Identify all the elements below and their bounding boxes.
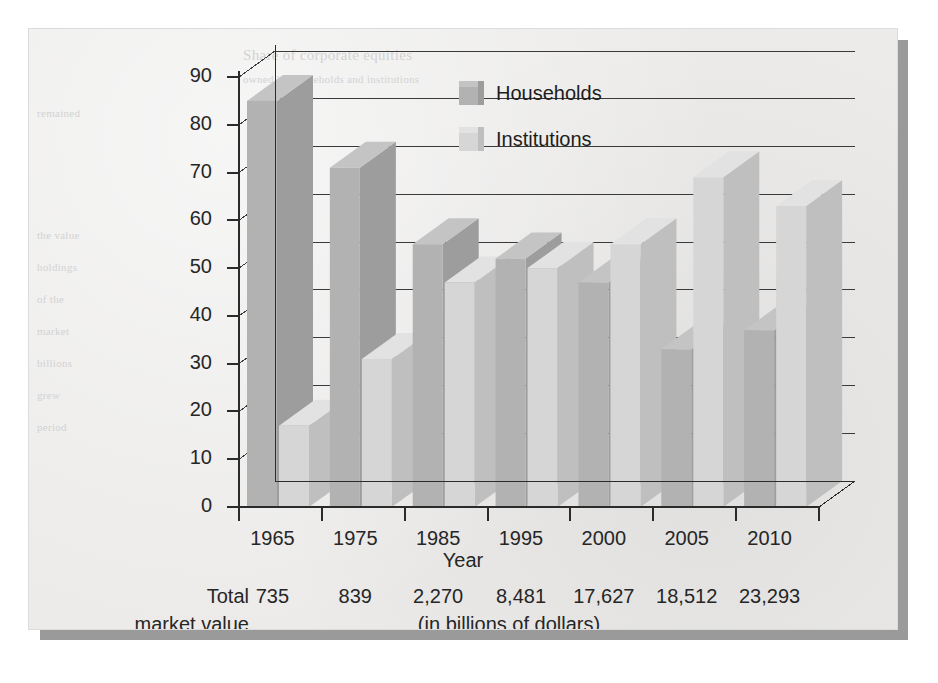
total-value-1965: 735 xyxy=(225,585,320,608)
total-value-1975: 839 xyxy=(308,585,403,608)
legend-swatch-households-icon xyxy=(459,81,485,105)
totals-unit-label: (in billions of dollars) xyxy=(359,613,659,630)
y-tick-label-90: 90 xyxy=(164,64,212,87)
x-tick-label-2010: 2010 xyxy=(728,527,811,550)
y-tick-label-50: 50 xyxy=(164,255,212,278)
institutions-bar-2010 xyxy=(776,206,806,507)
plot-area: 9080706050403020100 19651975198519952000… xyxy=(29,29,897,629)
households-bar-1975 xyxy=(330,168,360,507)
households-bar-1985 xyxy=(413,244,443,507)
households-bar-1995 xyxy=(496,259,526,507)
total-value-2010: 23,293 xyxy=(722,585,817,608)
y-tick-label-10: 10 xyxy=(164,446,212,469)
legend-label-households: Households xyxy=(496,82,602,105)
x-tick-label-2005: 2005 xyxy=(645,527,728,550)
y-tick-label-40: 40 xyxy=(164,303,212,326)
households-bar-1965 xyxy=(247,101,277,507)
institutions-bar-1975 xyxy=(362,359,392,507)
institutions-bar-1985 xyxy=(445,282,475,507)
institutions-bar-2010-side xyxy=(806,180,842,507)
x-tick-label-1965: 1965 xyxy=(231,527,314,550)
y-tick-label-0: 0 xyxy=(164,494,212,517)
totals-caption-line1: Total xyxy=(69,585,249,608)
households-bar-2005 xyxy=(661,349,691,507)
x-tick-label-1975: 1975 xyxy=(314,527,397,550)
y-tick-label-60: 60 xyxy=(164,207,212,230)
screenshot-root: Share of corporate equities owned by hou… xyxy=(0,0,938,683)
y-tick-label-20: 20 xyxy=(164,398,212,421)
y-tick-label-80: 80 xyxy=(164,112,212,135)
households-bar-2010 xyxy=(744,330,774,507)
gridline-depth-90 xyxy=(239,51,275,77)
legend-item-households: Households xyxy=(459,81,602,105)
y-tick-label-70: 70 xyxy=(164,160,212,183)
total-value-1985: 2,270 xyxy=(391,585,486,608)
institutions-bar-2000 xyxy=(610,244,640,507)
households-bar-2000 xyxy=(578,282,608,507)
x-tick-label-2000: 2000 xyxy=(562,527,645,550)
figure-panel: Share of corporate equities owned by hou… xyxy=(28,28,898,630)
x-tick-label-1985: 1985 xyxy=(397,527,480,550)
totals-caption-line2: market value xyxy=(69,613,249,630)
y-tick-label-30: 30 xyxy=(164,351,212,374)
legend-label-institutions: Institutions xyxy=(496,128,592,151)
total-value-2005: 18,512 xyxy=(639,585,734,608)
institutions-bar-1965 xyxy=(279,426,309,507)
legend-item-institutions: Institutions xyxy=(459,127,592,151)
x-tick-label-1995: 1995 xyxy=(480,527,563,550)
legend-swatch-institutions-icon xyxy=(459,127,485,151)
total-value-2000: 17,627 xyxy=(556,585,651,608)
institutions-bar-1995 xyxy=(528,268,558,507)
institutions-bar-2005 xyxy=(693,177,723,507)
x-axis-title: Year xyxy=(363,549,563,572)
total-value-1995: 8,481 xyxy=(474,585,569,608)
